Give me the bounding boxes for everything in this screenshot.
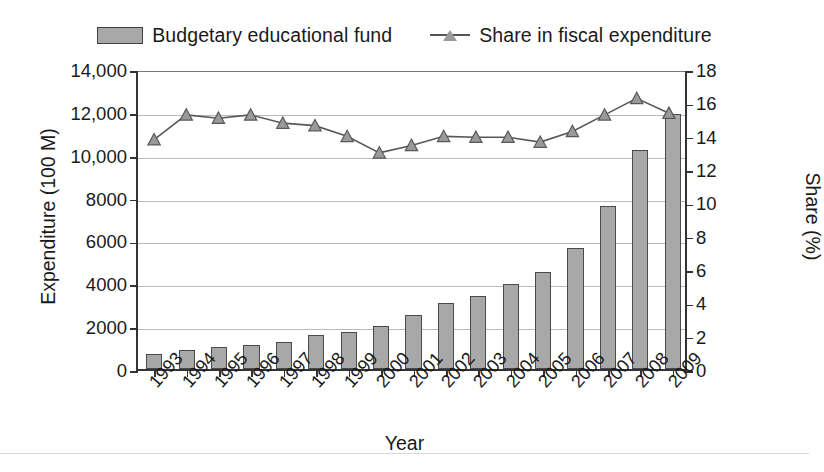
- bar-swatch-icon: [97, 27, 143, 44]
- y-tick-left: [130, 200, 138, 202]
- y-tick-label-right: 8: [696, 227, 706, 249]
- y-tick-label-left: 10,000: [70, 146, 127, 168]
- y-tick-right: [685, 171, 693, 173]
- y-tick-label-right: 16: [696, 93, 717, 115]
- y-tick-left: [130, 328, 138, 330]
- line-marker-triangle: [244, 109, 256, 120]
- y-tick-label-right: 14: [696, 127, 717, 149]
- line-marker-triangle: [566, 125, 578, 136]
- legend-item-budgetary-educational-fund: Budgetary educational fund: [97, 24, 392, 47]
- y-tick-right: [685, 338, 693, 340]
- y-tick-right: [685, 238, 693, 240]
- y-tick-label-right: 4: [696, 293, 706, 315]
- y-axis-title-left: Expenditure (100 M): [37, 77, 60, 357]
- y-tick-right: [685, 138, 693, 140]
- line-marker-triangle: [180, 109, 192, 120]
- line-marker-triangle: [598, 109, 610, 120]
- y-tick-label-left: 2000: [86, 317, 127, 339]
- y-tick-left: [130, 371, 138, 373]
- y-tick-label-right: 12: [696, 160, 717, 182]
- line-marker-triangle: [148, 134, 160, 145]
- line-marker-triangle: [631, 92, 643, 103]
- y-tick-left: [130, 243, 138, 245]
- y-tick-right: [685, 205, 693, 207]
- y-tick-right: [685, 105, 693, 107]
- line-series: [138, 72, 685, 369]
- y-tick-left: [130, 285, 138, 287]
- x-axis-title: Year: [0, 432, 809, 455]
- legend-label-bar: Budgetary educational fund: [152, 24, 392, 47]
- y-tick-left: [130, 157, 138, 159]
- y-tick-label-right: 6: [696, 260, 706, 282]
- triangle-icon: [443, 30, 457, 41]
- y-tick-right: [685, 305, 693, 307]
- y-tick-right: [685, 271, 693, 273]
- y-tick-label-right: 18: [696, 60, 717, 82]
- bottom-divider: [0, 453, 809, 454]
- y-tick-label-right: 10: [696, 193, 717, 215]
- y-tick-label-left: 12,000: [70, 103, 127, 125]
- legend-item-share-in-fiscal-expenditure: Share in fiscal expenditure: [430, 24, 712, 47]
- y-axis-title-right: Share (%): [801, 77, 824, 357]
- chart-legend: Budgetary educational fund Share in fisc…: [0, 18, 809, 52]
- y-tick-label-left: 6000: [86, 231, 127, 253]
- y-tick-label-left: 4000: [86, 274, 127, 296]
- line-marker-triangle: [341, 130, 353, 141]
- y-tick-label-left: 14,000: [70, 60, 127, 82]
- line-triangle-marker-icon: [430, 28, 470, 42]
- y-tick-label-right: 2: [696, 327, 706, 349]
- plot-area: 0200040006000800010,00012,00014,000 0246…: [136, 71, 687, 371]
- y-tick-left: [130, 114, 138, 116]
- line-marker-triangle: [663, 107, 675, 118]
- y-tick-label-left: 8000: [86, 189, 127, 211]
- y-tick-label-left: 0: [117, 360, 127, 382]
- legend-label-line: Share in fiscal expenditure: [479, 24, 712, 47]
- y-tick-left: [130, 71, 138, 73]
- y-tick-right: [685, 71, 693, 73]
